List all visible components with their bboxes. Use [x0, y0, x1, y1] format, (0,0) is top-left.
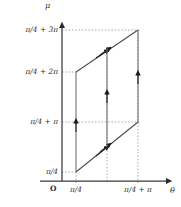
x-tick-label-1: π/4 + π [108, 185, 168, 194]
axis-lines [40, 24, 170, 181]
y-tick-label-3: π/4 + 3π [0, 25, 58, 34]
x-tick-label-0: π/4 [58, 185, 94, 194]
x-axis-label: θ [170, 186, 175, 195]
y-axis-label: μ [45, 1, 50, 10]
y-tick-label-1: π/4 + π [0, 117, 58, 126]
figure-canvas: μ θ O π/4 + 3π π/4 + 2π π/4 + π π/4 π/4 … [0, 0, 181, 207]
diagonal-arrows [96, 48, 110, 156]
origin-label: O [50, 184, 56, 193]
y-tick-label-0: π/4 [0, 167, 58, 176]
y-tick-label-2: π/4 + 2π [0, 67, 58, 76]
